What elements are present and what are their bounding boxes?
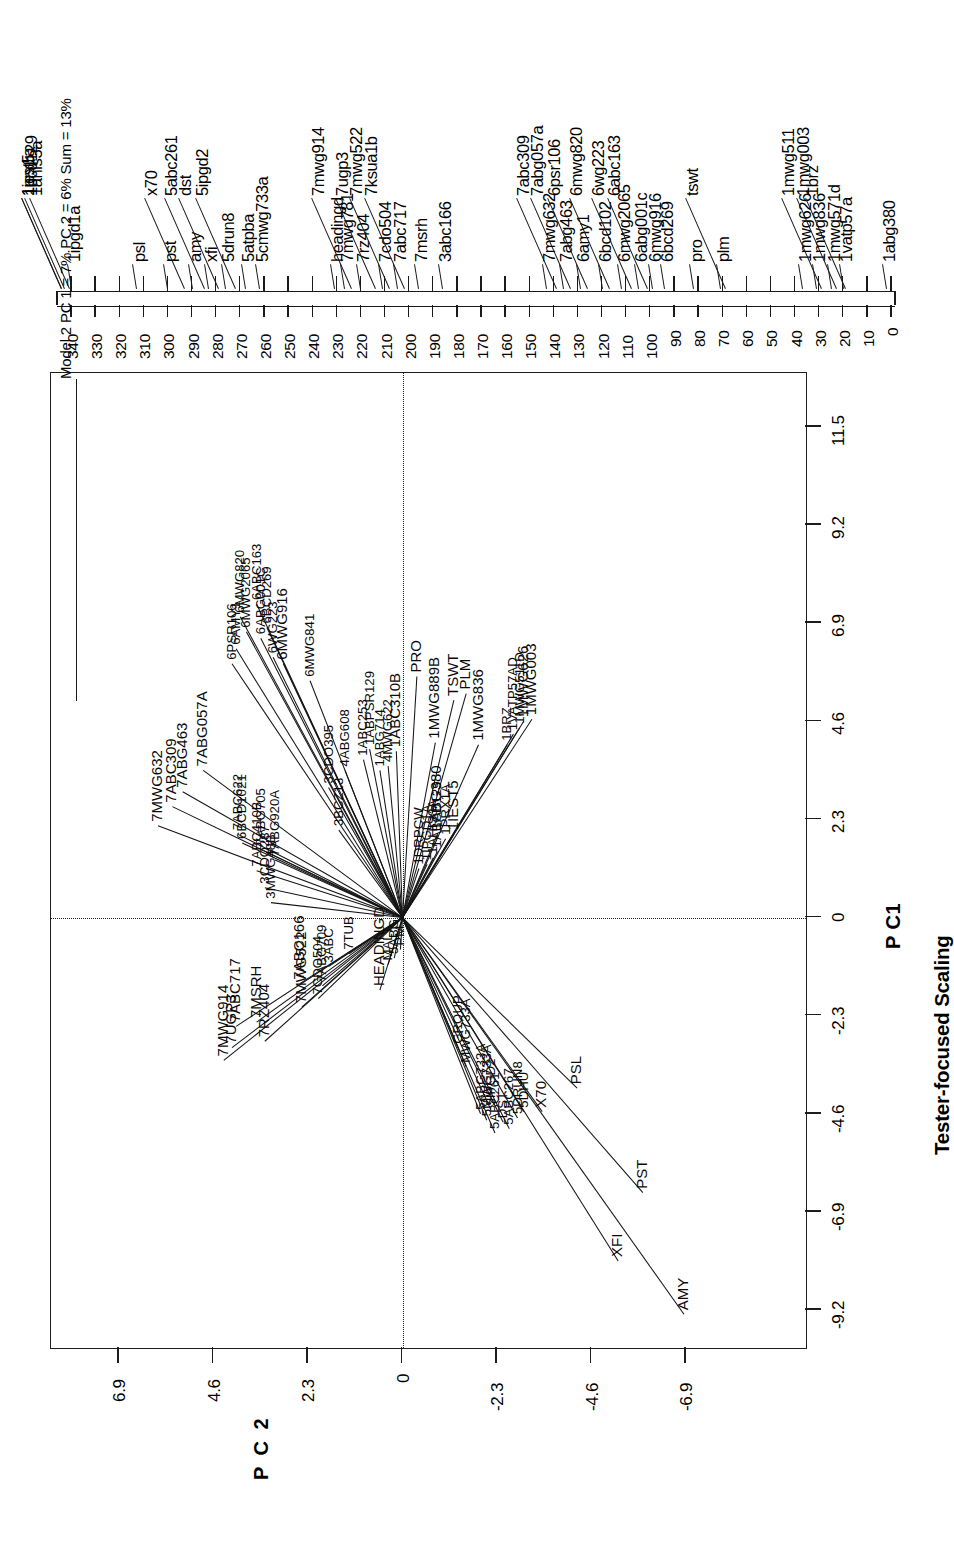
map-tick-label: 70 — [715, 330, 733, 347]
map-tick-lower — [360, 305, 361, 317]
pc1-tick-label: -9.2 — [829, 1301, 849, 1329]
map-tick-lower — [312, 305, 313, 317]
map-tick-label: 120 — [595, 334, 613, 359]
map-marker-leader — [438, 264, 443, 289]
map-tick-lower — [504, 305, 505, 317]
map-marker-label: 6mwg820 — [567, 127, 586, 196]
vector-label: 6WG223 — [265, 601, 280, 653]
pc1-tick — [805, 1014, 821, 1016]
map-tick — [143, 276, 144, 292]
map-tick-label: 60 — [739, 330, 757, 347]
map-tick — [673, 276, 674, 292]
vector-label: X70 — [532, 1081, 549, 1108]
pc1-tick — [805, 720, 821, 722]
map-tick-lower — [746, 305, 747, 317]
map-tick-label: 220 — [353, 334, 371, 359]
map-marker-label: tswt — [683, 168, 702, 196]
vector-line — [339, 830, 403, 917]
vector-label: 3ABC — [321, 928, 336, 963]
vector-label: 5DHU — [516, 1072, 531, 1108]
vector-line — [183, 792, 403, 918]
pc1-tick-label: 11.5 — [829, 415, 849, 446]
vector-label: 3CDO395 — [321, 725, 336, 784]
pc1-tick-label: 0 — [829, 912, 849, 921]
map-marker-label: 5drun8 — [219, 213, 238, 262]
pc1-tick-label: -6.9 — [829, 1203, 849, 1231]
map-tick — [94, 276, 95, 292]
map-tick-label: 280 — [209, 334, 227, 359]
map-tick-lower — [553, 305, 554, 317]
map-tick-label: 10 — [860, 330, 878, 347]
map-tick — [408, 276, 409, 292]
vector-line — [403, 918, 643, 1193]
map-tick-label: 310 — [136, 334, 154, 359]
map-marker-label: 6bcd269 — [658, 201, 677, 262]
map-tick-lower — [890, 305, 891, 317]
vector-label: PLM — [456, 659, 473, 690]
map-tick-lower — [119, 305, 120, 317]
map-tick-lower — [432, 305, 433, 317]
map-tick-label: 190 — [426, 334, 444, 359]
pc1-tick — [805, 1112, 821, 1114]
vector-label: PRO — [407, 640, 424, 673]
map-tick-label: 150 — [522, 334, 540, 359]
vector-label: 6MWG841 — [302, 614, 317, 677]
pc2-tick-label: 2.3 — [299, 1379, 319, 1402]
map-tick-label: 240 — [305, 334, 323, 359]
vector-label: 1MWG889B — [425, 657, 442, 739]
vector-label: 6BCD1021 — [234, 774, 249, 839]
map-tick-label: 320 — [112, 334, 130, 359]
pc2-tick-label: 6.9 — [110, 1379, 130, 1402]
map-tick — [866, 276, 867, 292]
pc2-tick-label: -4.6 — [583, 1383, 603, 1411]
vector-label: PST — [633, 1160, 650, 1189]
map-tick-lower — [818, 305, 819, 317]
pc2-tick — [212, 1347, 214, 1363]
pc1-tick-label: 4.6 — [829, 713, 849, 736]
pc1-tick-label: 6.9 — [829, 614, 849, 637]
map-marker-label: 7abc717 — [391, 201, 410, 262]
map-tick-lower — [625, 305, 626, 317]
map-tick-label: 160 — [498, 334, 516, 359]
map-tick — [794, 276, 795, 292]
map-tick-lower — [287, 305, 288, 317]
vector-label: 1MWG003 — [522, 643, 539, 715]
vector-label: 7ABC717 — [226, 958, 243, 1022]
map-marker-leader — [882, 264, 887, 289]
map-tick-label: 140 — [546, 334, 564, 359]
pc1-tick-label: 2.3 — [829, 811, 849, 834]
pc2-tick-label: -6.9 — [677, 1383, 697, 1411]
map-tick-lower — [722, 305, 723, 317]
map-tick — [480, 276, 481, 292]
map-marker-label: x70 — [142, 171, 161, 196]
pc1-tick — [805, 621, 821, 623]
pc1-tick — [805, 1210, 821, 1212]
map-tick-lower — [191, 305, 192, 317]
pc1-tick-label: -4.6 — [829, 1105, 849, 1133]
map-tick-lower — [408, 305, 409, 317]
pc2-tick — [401, 1347, 403, 1363]
map-tick-label: 270 — [233, 334, 251, 359]
map-tick-label: 80 — [691, 330, 709, 347]
pc2-tick — [306, 1347, 308, 1363]
pc2-tick-label: -2.3 — [488, 1383, 508, 1411]
map-marker-leader — [241, 264, 246, 289]
vector-label: 5ABG733A — [473, 1044, 488, 1110]
map-marker-label: 1abg380 — [880, 201, 899, 262]
map-tick-lower — [529, 305, 530, 317]
map-tick-label: 230 — [329, 334, 347, 359]
map-marker-label: 5ipgd2 — [193, 149, 212, 196]
map-tick — [890, 276, 891, 292]
pc2-tick — [117, 1347, 119, 1363]
vector-layer: AMYXFIPSTX70PSL5ABC2615ABC267DST5DRUN85D… — [51, 373, 806, 1348]
map-marker-label: pro — [687, 239, 706, 262]
model-title-text: Model 2 PC 1 = 7% PC 2 = 6% Sum = 13% — [57, 98, 74, 379]
vector-label: 3BCZ13 — [331, 778, 346, 826]
pc1-axis-label: P C1 — [882, 902, 905, 948]
map-tick-label: 90 — [667, 330, 685, 347]
vector-label: 1ABC310B — [386, 673, 403, 747]
map-tick-lower — [649, 305, 650, 317]
map-marker-label: 7mwg914 — [309, 127, 328, 196]
pc1-tick — [805, 916, 821, 918]
